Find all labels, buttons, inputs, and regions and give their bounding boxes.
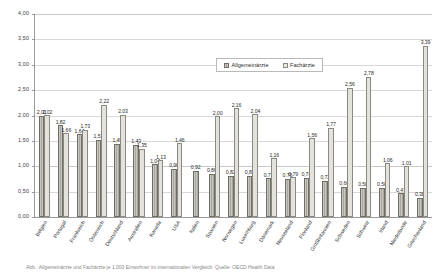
x-axis-tick-label: Spanien — [205, 220, 220, 239]
x-axis: BelgienPortugalFrankreichÖsterreichDeuts… — [35, 219, 432, 259]
bar: 1,06 — [385, 163, 391, 217]
bar-value-label: 1,06 — [383, 158, 393, 163]
y-axis-tick-label: 1,50 — [18, 138, 29, 143]
bar-group: 0,781,56 — [300, 14, 319, 217]
bar: 2,78 — [366, 77, 372, 217]
bar-group: 2,012,02 — [35, 14, 54, 217]
bar-group: 0,471,01 — [394, 14, 413, 217]
y-axis-tick-label: 2,50 — [18, 87, 29, 92]
y-axis-tick-label: 0,50 — [18, 189, 29, 194]
x-axis-tick-label: Norwegen — [221, 220, 238, 243]
x-axis-tick-label: Kanada — [148, 220, 162, 238]
x-axis-tick-label: Finnland — [299, 220, 314, 240]
bar-value-label: 2,22 — [99, 99, 109, 104]
bar: 1,66 — [63, 133, 69, 217]
x-axis-tick: Neuseeland — [281, 219, 300, 259]
bar: 1,77 — [328, 128, 334, 217]
bar-value-label: 1,56 — [307, 133, 317, 138]
x-axis-tick-label: USA — [171, 220, 181, 232]
x-axis-tick: Griechenland — [413, 219, 432, 259]
bar-value-label: 1,35 — [137, 143, 147, 148]
bar-value-label: 1,16 — [269, 153, 279, 158]
bar: 0,79 — [290, 177, 296, 217]
bar-value-label: 2,03 — [118, 109, 128, 114]
bar-group: 0,92 — [186, 14, 205, 217]
y-axis-tick-label: 2,00 — [18, 113, 29, 118]
x-axis-tick: Australien — [130, 219, 149, 259]
legend-swatch-icon-fachaerzte — [283, 63, 288, 68]
bar-group: 0,822,04 — [243, 14, 262, 217]
bar-value-label: 2,16 — [232, 103, 242, 108]
bar-value-label: 1,77 — [326, 122, 336, 127]
x-axis-tick-label: Belgien — [35, 220, 49, 238]
bar-group: 0,602,56 — [338, 14, 357, 217]
bar-group: 0,771,16 — [262, 14, 281, 217]
bar-value-label: 1,01 — [402, 161, 412, 166]
bar: 1,56 — [309, 138, 315, 217]
bar-value-label: 1,13 — [156, 155, 166, 160]
x-axis-tick: Schweden — [338, 219, 357, 259]
bar: 1,13 — [158, 160, 164, 217]
bar: 2,02 — [44, 115, 50, 217]
x-axis-tick: Belgien — [35, 219, 54, 259]
bar-value-label: 1,46 — [175, 138, 185, 143]
x-axis-tick-label: Australien — [127, 220, 144, 242]
bar-value-label: 0,79 — [288, 172, 298, 177]
x-axis-tick: USA — [167, 219, 186, 259]
bar-group: 1,532,22 — [92, 14, 111, 217]
bar: 2,16 — [234, 108, 240, 217]
bar-group: 0,822,16 — [224, 14, 243, 217]
bar-group: 0,862,00 — [205, 14, 224, 217]
bar-value-label: 2,02 — [43, 110, 53, 115]
bar-value-label: 1,66 — [61, 128, 71, 133]
bar: 3,39 — [423, 46, 429, 217]
bar-group: 0,721,77 — [319, 14, 338, 217]
bar-group: 0,581,06 — [375, 14, 394, 217]
x-axis-tick: Italien — [186, 219, 205, 259]
bar: 2,04 — [252, 114, 258, 217]
chart-figure: 4,003,503,002,502,001,501,000,500,00 2,0… — [0, 0, 439, 273]
bar-group: 1,041,13 — [148, 14, 167, 217]
bar-groups: 2,012,021,821,661,641,731,532,221,452,03… — [35, 14, 432, 217]
bar: 1,35 — [139, 149, 145, 217]
x-axis-tick-label: Österreich — [88, 220, 105, 243]
x-axis-tick: Kanada — [148, 219, 167, 259]
bar-group: 0,961,46 — [167, 14, 186, 217]
bar: 0,92 — [193, 171, 199, 217]
bar-value-label: 2,78 — [364, 71, 374, 76]
bar: 2,56 — [347, 88, 353, 217]
x-axis-tick: Schweiz — [356, 219, 375, 259]
bar-group: 0,582,78 — [356, 14, 375, 217]
bar-value-label: 3,39 — [421, 40, 431, 45]
y-axis-tick-label: 3,50 — [18, 37, 29, 42]
bar-value-label: 2,00 — [213, 111, 223, 116]
legend-item-fachaerzte: Fachärzte — [283, 62, 315, 68]
y-axis-tick-label: 4,00 — [18, 11, 29, 16]
y-axis: 4,003,503,002,502,001,501,000,500,00 — [0, 14, 32, 218]
x-axis-tick-label: Schweiz — [356, 220, 371, 239]
x-axis-tick-label: Portugal — [53, 220, 68, 239]
x-axis-tick-label: Italien — [188, 220, 200, 235]
bar: 1,46 — [177, 143, 183, 217]
x-axis-tick-label: Schweden — [334, 220, 351, 243]
bar: 2,03 — [120, 115, 126, 218]
x-axis-tick-label: Irland — [378, 220, 389, 234]
bar-group: 1,821,66 — [54, 14, 73, 217]
chart-legend: Allgemeinärzte Fachärzte — [216, 58, 323, 72]
bar-value-label: 2,04 — [251, 109, 261, 114]
bar: 1,73 — [82, 130, 88, 217]
y-axis-tick-label: 3,00 — [18, 62, 29, 67]
bar-value-label: 2,56 — [345, 82, 355, 87]
y-axis-tick-label: 0,00 — [18, 214, 29, 219]
legend-label-allgemeinaerzte: Allgemeinärzte — [232, 62, 269, 68]
bar-group: 1,452,03 — [111, 14, 130, 217]
bar-group: 0,760,79 — [281, 14, 300, 217]
legend-item-allgemeinaerzte: Allgemeinärzte — [224, 62, 269, 68]
x-axis-tick-label: Dänemark — [259, 220, 276, 243]
y-axis-tick-label: 1,00 — [18, 164, 29, 169]
figure-caption: Abb.: Allgemeinärzte und Fachärzte je 1.… — [26, 264, 426, 270]
bar: 2,22 — [101, 105, 107, 217]
bar: 2,00 — [215, 116, 221, 217]
bar: 1,16 — [271, 158, 277, 217]
bar-value-label: 0,92 — [191, 165, 201, 170]
